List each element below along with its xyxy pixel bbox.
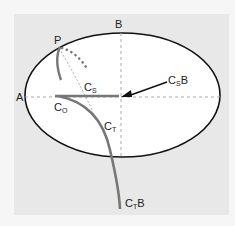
label-a: A [16, 92, 23, 103]
label-ct: CT [104, 121, 116, 133]
label-cs: CS [84, 82, 97, 94]
label-co: CO [54, 102, 67, 114]
ellipse [25, 33, 220, 157]
label-p: P [54, 35, 61, 46]
label-b: B [115, 19, 122, 30]
label-csb: CSB [168, 75, 188, 87]
diagram-canvas [0, 0, 235, 226]
label-ctb: CTB [125, 198, 145, 210]
